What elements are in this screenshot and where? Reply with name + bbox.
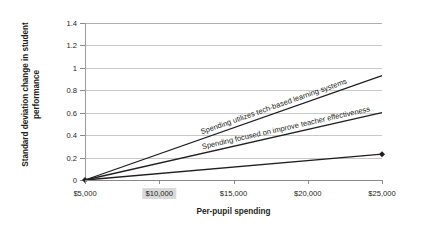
plot-area: 00.20.40.60.811.21.4 Spending utilizes t…	[85, 23, 382, 180]
x-tick-mark	[85, 180, 86, 184]
series-line	[85, 154, 382, 180]
series-line	[85, 76, 382, 180]
y-tick-label: 0.6	[66, 108, 77, 117]
y-tick-label: 0.2	[66, 153, 77, 162]
x-tick-mark	[234, 180, 235, 184]
x-axis-title: Per-pupil spending	[85, 207, 382, 216]
x-tick-label: $25,000	[365, 188, 398, 199]
y-tick-label: 1.4	[66, 19, 77, 28]
series-lines	[85, 23, 382, 180]
y-tick-label: 0.4	[66, 131, 77, 140]
chart-container: Standard deviation change in student per…	[0, 0, 429, 234]
x-tick-mark	[382, 180, 383, 184]
y-tick-label: 0.8	[66, 86, 77, 95]
y-tick-label: 1	[73, 63, 77, 72]
data-point-marker	[379, 151, 385, 157]
x-tick-label: $20,000	[291, 188, 324, 199]
y-axis-title: Standard deviation change in student per…	[21, 15, 42, 175]
x-tick-label: $5,000	[70, 188, 99, 199]
x-tick-mark	[308, 180, 309, 184]
y-tick-label: 0	[73, 176, 77, 185]
y-tick-label: 1.2	[66, 41, 77, 50]
x-tick-mark	[159, 180, 160, 184]
x-tick-label: $15,000	[217, 188, 250, 199]
x-tick-label: $10,000	[143, 188, 176, 199]
